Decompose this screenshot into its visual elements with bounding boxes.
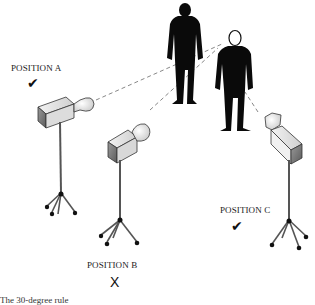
- sightline-a: [96, 44, 222, 100]
- position-c-label: POSITION C: [220, 205, 270, 215]
- person-left-silhouette: [167, 3, 203, 104]
- camera-c: [265, 113, 308, 250]
- cross-icon-b: X: [110, 274, 119, 290]
- position-a-label: POSITION A: [11, 63, 61, 73]
- position-b-label: POSITION B: [87, 260, 137, 270]
- sightline-c: [245, 92, 258, 112]
- checkmark-icon-c: ✔: [231, 218, 243, 234]
- camera-b: [99, 124, 150, 246]
- figure-caption: The 30-degree rule: [0, 295, 68, 305]
- person-right-silhouette: [215, 31, 253, 132]
- camera-a: [38, 97, 94, 216]
- checkmark-icon-a: ✔: [27, 75, 39, 91]
